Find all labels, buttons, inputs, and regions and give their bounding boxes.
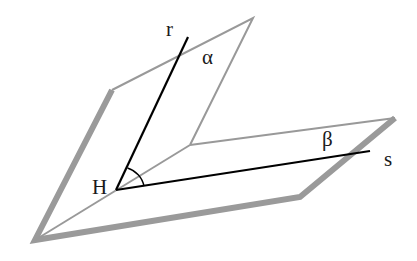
label-alpha: α [202, 45, 213, 69]
dihedral-angle-diagram: r α β s H [0, 0, 417, 261]
plane-thick-edge [35, 90, 395, 240]
label-s: s [384, 147, 392, 171]
line-r [116, 37, 188, 190]
label-H: H [92, 175, 107, 199]
plane-alpha-edge [112, 18, 253, 145]
label-r: r [166, 17, 173, 41]
diagram-canvas: r α β s H [0, 0, 417, 261]
angle-arc [128, 168, 145, 186]
label-beta: β [322, 127, 333, 151]
